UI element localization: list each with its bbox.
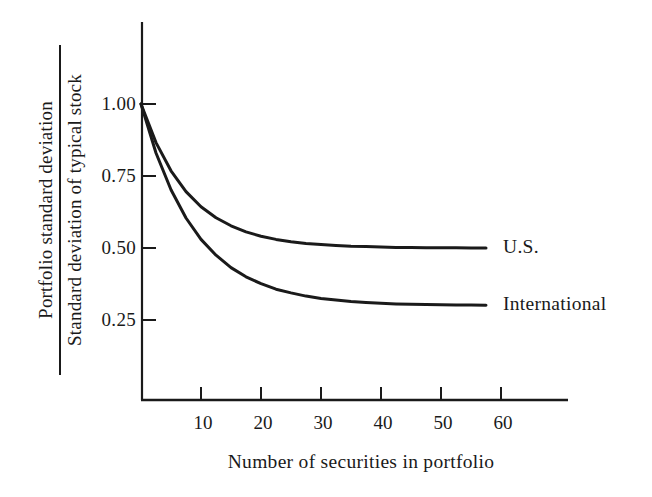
y-tick-label: 0.50	[86, 237, 136, 259]
y-axis-label-numerator: Portfolio standard deviation	[34, 45, 57, 375]
y-axis-label-denominator: Standard deviation of typical stock	[63, 45, 86, 375]
x-tick-label: 40	[361, 412, 405, 434]
y-tick-label: 0.25	[86, 309, 136, 331]
x-axis-label: Number of securities in portfolio	[161, 451, 561, 473]
y-axis-label: Portfolio standard deviation Standard de…	[34, 45, 86, 375]
curves	[141, 104, 486, 305]
y-tick-label: 0.75	[86, 165, 136, 187]
tick-marks	[142, 104, 501, 400]
y-tick-label: 1.00	[86, 93, 136, 115]
x-tick-label: 20	[241, 412, 285, 434]
series-curve-international	[141, 104, 486, 305]
x-tick-label: 30	[301, 412, 345, 434]
x-tick-label: 50	[421, 412, 465, 434]
diversification-chart: Portfolio standard deviation Standard de…	[0, 0, 652, 497]
x-tick-label: 10	[181, 412, 225, 434]
series-label: U.S.	[503, 236, 539, 258]
fraction-bar-icon	[59, 45, 61, 375]
series-label: International	[503, 293, 607, 315]
x-tick-label: 60	[481, 412, 525, 434]
